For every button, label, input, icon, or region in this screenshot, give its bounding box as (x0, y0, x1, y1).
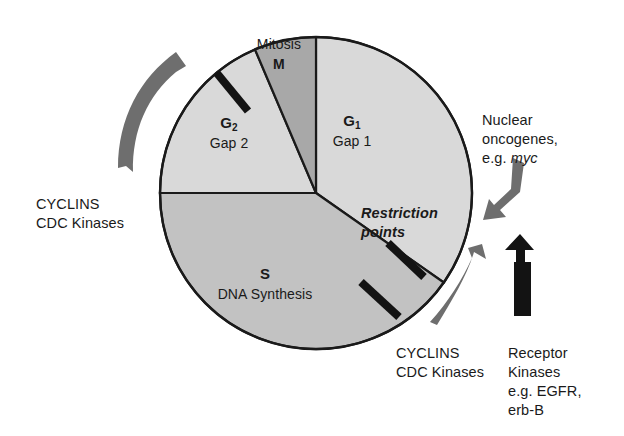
annotation-cyclins-bottom-line1: CYCLINS (396, 345, 460, 362)
annotation-cyclins-left-line2: CDC Kinases (36, 215, 124, 232)
sector-label-s-code: S (260, 265, 270, 283)
sector-label-g2-name: Gap 2 (210, 135, 249, 152)
annotation-receptor-kinases-line1: Receptor (508, 345, 568, 362)
annotation-receptor-kinases-line4: erb-B (508, 402, 544, 419)
sector-label-g1-name: Gap 1 (333, 133, 372, 150)
sector-label-g1-code: G1 (343, 112, 360, 130)
annotation-receptor-kinases-line3: e.g. EGFR, (508, 383, 582, 400)
gene-name-myc: myc (511, 150, 538, 166)
sector-label-mitosis-name: Mitosis (257, 36, 301, 53)
annotation-nuclear-oncogenes-line3: e.g. myc (482, 150, 538, 167)
annotation-receptor-kinases-line2: Kinases (508, 364, 560, 381)
sector-label-mitosis-code: M (273, 56, 285, 73)
nuclear-oncogenes-arrow-icon (483, 158, 524, 220)
annotation-cyclins-left-line1: CYCLINS (36, 196, 100, 213)
restriction-points-label-line2: points (361, 224, 405, 241)
receptor-kinases-arrow-shaft (514, 262, 531, 316)
annotation-cyclins-bottom-line2: CDC Kinases (396, 364, 484, 381)
cell-cycle-diagram: Mitosis M G1 Gap 1 G2 Gap 2 S DNA Synthe… (0, 0, 624, 436)
restriction-points-label-line1: Restriction (361, 205, 438, 222)
annotation-nuclear-oncogenes-line2: oncogenes, (482, 131, 558, 148)
eg-prefix: e.g. (482, 150, 511, 166)
sector-label-s-name: DNA Synthesis (218, 286, 313, 303)
sector-label-g2-code: G2 (220, 114, 237, 132)
annotation-nuclear-oncogenes-line1: Nuclear (482, 112, 533, 129)
